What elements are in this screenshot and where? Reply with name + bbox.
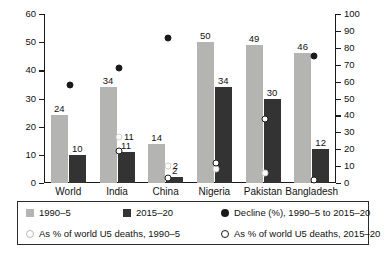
bar-value-label: 49: [249, 34, 260, 44]
bar-1990-5: 46: [294, 53, 311, 183]
bar-1990-5: 14: [148, 144, 165, 183]
bar-value-label: 12: [315, 138, 326, 148]
right-tick-label: 0: [344, 178, 349, 188]
bar-group: 4930: [246, 14, 281, 183]
share-1990-marker: [262, 169, 269, 176]
legend-row-top: 1990–5 2015–20 Decline (%), 1990–5 to 20…: [18, 202, 368, 224]
bar-2015-20: 11: [118, 152, 135, 183]
right-tick: [336, 14, 341, 15]
bar-value-label: 34: [103, 76, 114, 86]
bar-group: 5034: [197, 14, 232, 183]
bar-group: 3411: [100, 14, 135, 183]
share-2015-marker: [164, 174, 171, 181]
right-tick: [336, 99, 341, 100]
legend-filled-circle-icon: [221, 209, 229, 217]
legend-swatch-dark-icon: [123, 209, 131, 217]
legend-item-1990-5: 1990–5: [26, 202, 71, 224]
left-axis-line: [44, 14, 45, 183]
right-tick-label: 30: [344, 128, 355, 138]
decline-marker: [67, 81, 74, 88]
left-tick-label: 10: [25, 150, 36, 160]
legend-item-share-1990-5: As % of world U5 deaths, 1990–5: [26, 223, 180, 245]
chart-root: 0102030405060 0102030405060708090100 241…: [0, 0, 385, 259]
share-1990-marker: [213, 166, 220, 173]
share-1990-marker: [164, 163, 171, 170]
right-tick-label: 80: [344, 43, 355, 53]
right-tick-label: 50: [344, 94, 355, 104]
legend-item-2015-20: 2015–20: [123, 202, 173, 224]
right-tick: [336, 48, 341, 49]
bar-value-label: 34: [218, 76, 229, 86]
decline-marker: [310, 53, 317, 60]
category-label: Bangladesh: [285, 186, 338, 197]
legend-label: 1990–5: [39, 208, 71, 218]
left-tick: [39, 14, 44, 15]
right-tick-label: 20: [344, 144, 355, 154]
x-axis-line: [44, 182, 336, 183]
legend-label: 2015–20: [136, 208, 173, 218]
legend-swatch-light-icon: [26, 209, 34, 217]
left-tick-label: 40: [25, 66, 36, 76]
right-tick: [336, 82, 341, 83]
legend-open-circle-dark-icon: [221, 230, 229, 238]
decline-marker: [116, 65, 123, 72]
bar-value-label: 11: [121, 141, 131, 151]
bar-1990-5: 50: [197, 42, 214, 183]
plot-area: 0102030405060 0102030405060708090100 241…: [44, 14, 336, 183]
legend-label: As % of world U5 deaths, 1990–5: [39, 229, 180, 239]
chart-legend: 1990–5 2015–20 Decline (%), 1990–5 to 20…: [17, 201, 369, 245]
right-tick: [336, 166, 341, 167]
left-tick: [39, 155, 44, 156]
bar-value-label: 50: [200, 31, 211, 41]
right-tick: [336, 149, 341, 150]
left-tick-label: 60: [25, 9, 36, 19]
category-label: India: [106, 186, 128, 197]
share-2015-marker: [262, 115, 269, 122]
bar-group: 4612: [294, 14, 329, 183]
share-2015-marker: [213, 159, 220, 166]
bar-value-label: 10: [72, 144, 83, 154]
bar-1990-5: 34: [100, 87, 117, 183]
right-tick: [336, 183, 341, 184]
bar-value-label: 14: [151, 133, 162, 143]
legend-open-circle-light-icon: [26, 230, 34, 238]
left-tick: [39, 42, 44, 43]
bar-value-label: 46: [297, 42, 308, 52]
right-tick: [336, 65, 341, 66]
right-tick: [336, 31, 341, 32]
category-label: World: [55, 186, 81, 197]
left-tick-label: 0: [31, 178, 36, 188]
right-tick-label: 70: [344, 60, 355, 70]
bar-1990-5: 49: [246, 45, 263, 183]
share-2015-marker: [116, 147, 123, 154]
share-1990-marker: [116, 134, 123, 141]
right-tick-label: 40: [344, 111, 355, 121]
category-label: China: [153, 186, 179, 197]
left-tick-label: 20: [25, 122, 36, 132]
right-tick: [336, 132, 341, 133]
left-tick-label: 50: [25, 37, 36, 47]
bar-1990-5: 24: [51, 115, 68, 183]
bar-value-label: 24: [54, 104, 65, 114]
right-tick-label: 10: [344, 161, 355, 171]
left-tick: [39, 99, 44, 100]
right-tick: [336, 115, 341, 116]
right-tick-label: 60: [344, 77, 355, 87]
left-tick: [39, 183, 44, 184]
marker-value-label: 2: [173, 161, 178, 171]
bar-2015-20: 10: [69, 155, 86, 183]
right-tick-label: 90: [344, 26, 355, 36]
legend-label: Decline (%), 1990–5 to 2015–20: [234, 208, 370, 218]
legend-item-share-2015-20: As % of world U5 deaths, 2015–20: [221, 223, 380, 245]
left-tick-label: 30: [25, 94, 36, 104]
bar-group: 2410: [51, 14, 86, 183]
category-label: Nigeria: [198, 186, 230, 197]
legend-label: As % of world U5 deaths, 2015–20: [234, 229, 380, 239]
legend-row-bottom: As % of world U5 deaths, 1990–5 As % of …: [18, 223, 368, 245]
marker-value-label: 11: [124, 132, 134, 142]
bar-value-label: 30: [267, 88, 278, 98]
share-2015-marker: [310, 176, 317, 183]
x-axis-ticks: [44, 14, 336, 39]
legend-item-decline: Decline (%), 1990–5 to 2015–20: [221, 202, 370, 224]
category-label: Pakistan: [244, 186, 282, 197]
